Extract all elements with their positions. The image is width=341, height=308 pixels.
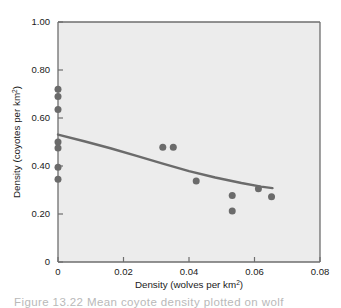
y-tick-label: 0.40 — [32, 160, 51, 171]
x-tick-label: 0 — [55, 266, 60, 277]
plot-background-group — [58, 22, 320, 262]
data-point — [55, 176, 62, 183]
y-tick-labels-group: 00.200.400.600.801.00 — [32, 16, 51, 267]
y-tick-label: 0 — [45, 256, 50, 267]
x-tick-labels-group: 00.020.040.060.08 — [55, 266, 329, 277]
y-tick-label: 0.80 — [32, 64, 51, 75]
data-point — [55, 106, 62, 113]
figure-caption: Figure 13.22 Mean coyote density plotted… — [14, 296, 284, 308]
data-point — [55, 93, 62, 100]
y-tick-label: 1.00 — [32, 16, 51, 27]
data-point — [159, 144, 166, 151]
y-axis-title: Density (coyotes per km2) — [11, 86, 22, 198]
y-tick-label: 0.60 — [32, 112, 51, 123]
data-point — [268, 193, 275, 200]
data-point — [255, 185, 262, 192]
data-point — [55, 86, 62, 93]
data-point — [229, 208, 236, 215]
x-tick-label: 0.06 — [245, 266, 264, 277]
data-point — [170, 144, 177, 151]
x-tick-label: 0.02 — [114, 266, 133, 277]
data-point — [55, 139, 62, 146]
plot-area-background — [58, 22, 320, 262]
data-point — [55, 164, 62, 171]
figure-container: 00.200.400.600.801.00 00.020.040.060.08 … — [0, 0, 341, 308]
data-point — [193, 178, 200, 185]
scatter-chart: 00.200.400.600.801.00 00.020.040.060.08 … — [0, 0, 341, 308]
x-tick-label: 0.04 — [180, 266, 199, 277]
x-tick-label: 0.08 — [311, 266, 330, 277]
data-point — [229, 192, 236, 199]
x-axis-title: Density (wolves per km2) — [135, 279, 243, 290]
data-point — [55, 145, 62, 152]
y-tick-label: 0.20 — [32, 208, 51, 219]
